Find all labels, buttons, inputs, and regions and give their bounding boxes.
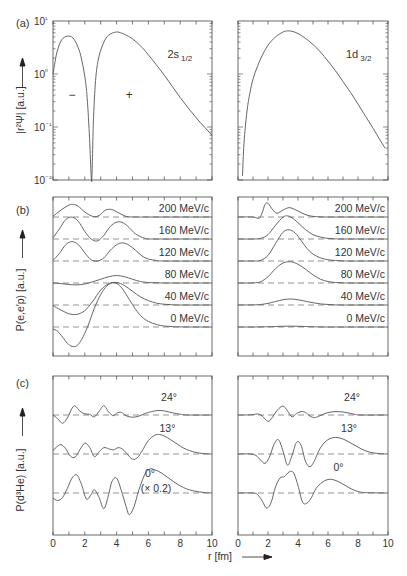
curve-0- <box>238 471 388 508</box>
x-tick-label: 8 <box>355 538 361 549</box>
x-tick-label: 4 <box>114 538 120 549</box>
x-tick-label: 8 <box>177 538 183 549</box>
angle-label: 13° <box>160 422 176 434</box>
y-tick-label: 10¹ <box>34 15 48 27</box>
panel-label-a: (a) <box>16 17 29 29</box>
plot-b-right: 200 MeV/c160 MeV/c120 MeV/c80 MeV/c40 Me… <box>238 197 388 356</box>
plot-a-left: 2s1/2−+ <box>53 21 212 182</box>
plot-c-right: 24°13°0° <box>238 376 388 535</box>
curve-24- <box>238 406 388 421</box>
momentum-label: 40 MeV/c <box>341 290 385 302</box>
y-tick-label: 10⁻² <box>34 174 52 186</box>
panel-label-b: (b) <box>16 204 29 216</box>
y-tick-label: 10⁻¹ <box>34 121 52 133</box>
x-tick-label: 4 <box>295 538 301 549</box>
x-tick-label: 10 <box>206 538 218 549</box>
x-tick-label: 0 <box>235 538 241 549</box>
panel-label-c: (c) <box>16 377 29 389</box>
state-label-main: 1d <box>346 48 358 60</box>
momentum-label: 160 MeV/c <box>335 224 385 236</box>
wavefunction-curve <box>243 31 386 176</box>
x-tick-label: 2 <box>82 538 88 549</box>
plot-c-left: 24°13°0°(× 0.2) <box>53 376 212 535</box>
figure-canvas: (a) (b) (c) |r²Ψ| [a.u.] P(e,e′p) [a.u.]… <box>0 0 407 576</box>
momentum-label: 80 MeV/c <box>341 268 385 280</box>
momentum-label: 0 MeV/c <box>346 312 385 324</box>
ylabel-b: P(e,e′p) [a.u.] <box>14 269 26 332</box>
momentum-label: 80 MeV/c <box>165 268 209 280</box>
plot-frame <box>238 376 388 535</box>
up-arrow-icon-c <box>20 408 25 436</box>
state-label: 2s1/2 <box>167 48 192 63</box>
curve-24- <box>53 406 212 424</box>
sign-annotation: + <box>126 88 133 102</box>
momentum-label: 200 MeV/c <box>159 202 209 214</box>
sign-annotation: − <box>69 88 76 102</box>
state-label-sub: 1/2 <box>181 54 193 63</box>
xlabel: r [fm] <box>208 550 232 562</box>
momentum-label: 160 MeV/c <box>159 224 209 236</box>
angle-label: 24° <box>161 391 177 403</box>
momentum-label: 120 MeV/c <box>159 246 209 258</box>
angle-label: 13° <box>341 422 357 434</box>
ylabel-a: |r²Ψ| [a.u.] <box>14 86 26 134</box>
state-label-sub: 3/2 <box>360 54 372 63</box>
up-arrow-icon-a <box>20 58 25 88</box>
momentum-label: 40 MeV/c <box>165 290 209 302</box>
scale-factor-label: (× 0.2) <box>141 482 172 494</box>
x-tick-label: 0 <box>50 538 56 549</box>
y-tick-label: 10⁰ <box>34 68 48 80</box>
angle-label: 0° <box>333 461 343 473</box>
plot-b-left: 200 MeV/c160 MeV/c120 MeV/c80 MeV/c40 Me… <box>53 197 212 356</box>
curve-13- <box>53 434 212 459</box>
curve-0-mev-c <box>238 326 388 327</box>
momentum-label: 120 MeV/c <box>335 246 385 258</box>
curve-0- <box>53 469 212 515</box>
momentum-label: 0 MeV/c <box>170 312 209 324</box>
state-label-main: 2s <box>167 48 179 60</box>
xlabel-text: r [fm] <box>208 550 232 562</box>
x-tick-label: 10 <box>382 538 394 549</box>
angle-label: 24° <box>344 391 360 403</box>
curve-13- <box>238 437 388 466</box>
x-tick-label: 6 <box>325 538 331 549</box>
x-tick-label: 6 <box>146 538 152 549</box>
ylabel-c: P(d³He) [a.u.] <box>14 448 26 511</box>
momentum-label: 200 MeV/c <box>335 202 385 214</box>
up-arrow-icon-b <box>20 230 25 258</box>
angle-label: 0° <box>145 467 155 479</box>
plot-a-right: 1d3/2 <box>238 21 388 180</box>
x-tick-label: 2 <box>265 538 271 549</box>
right-arrow-icon <box>242 555 272 560</box>
state-label: 1d3/2 <box>346 48 372 63</box>
